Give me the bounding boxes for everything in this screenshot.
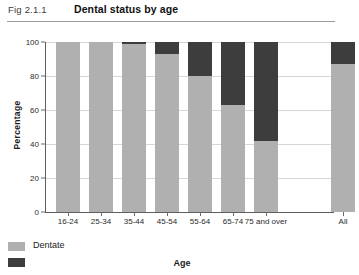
bar-segment-edentate bbox=[122, 42, 146, 44]
bar-segment-dentate bbox=[254, 141, 278, 212]
y-tick-mark bbox=[41, 42, 45, 43]
y-tick-label: 0 bbox=[17, 208, 39, 217]
bar-segment-edentate bbox=[331, 42, 355, 64]
figure-title: Dental status by age bbox=[74, 3, 178, 15]
y-tick-label: 40 bbox=[17, 140, 39, 149]
y-tick-label: 80 bbox=[17, 72, 39, 81]
x-tick-mark bbox=[134, 212, 135, 216]
legend-item[interactable]: Dentate bbox=[8, 240, 178, 256]
figure-number: Fig 2.1.1 bbox=[8, 4, 47, 15]
x-tick-mark bbox=[266, 212, 267, 216]
y-tick-mark bbox=[41, 178, 45, 179]
bar-25-34[interactable] bbox=[89, 42, 113, 212]
bar-16-24[interactable] bbox=[56, 42, 80, 212]
bar-55-64[interactable] bbox=[188, 42, 212, 212]
bar-segment-dentate bbox=[188, 76, 212, 212]
x-tick-label: All bbox=[320, 217, 359, 227]
x-tick-mark bbox=[343, 212, 344, 216]
chart-legend: Dentate bbox=[8, 240, 178, 272]
legend-swatch bbox=[8, 258, 25, 267]
x-tick-mark bbox=[200, 212, 201, 216]
bar-segment-dentate bbox=[331, 64, 355, 212]
bar-segment-dentate bbox=[56, 42, 80, 212]
bar-segment-dentate bbox=[221, 105, 245, 212]
y-tick-mark bbox=[41, 76, 45, 77]
y-tick-label: 20 bbox=[17, 174, 39, 183]
bar-segment-dentate bbox=[122, 44, 146, 212]
bar-segment-edentate bbox=[254, 42, 278, 141]
y-tick-mark bbox=[41, 110, 45, 111]
legend-label: Dentate bbox=[33, 240, 65, 250]
y-axis-ticks: 020406080100 bbox=[17, 24, 39, 224]
bar-series-container bbox=[45, 42, 333, 212]
bar-segment-dentate bbox=[89, 42, 113, 212]
bar-segment-edentate bbox=[155, 42, 179, 54]
x-tick-mark bbox=[167, 212, 168, 216]
legend-item[interactable] bbox=[8, 256, 178, 272]
header-divider bbox=[7, 21, 335, 22]
bar-segment-dentate bbox=[155, 54, 179, 212]
bar-all[interactable] bbox=[331, 42, 355, 212]
bar-segment-edentate bbox=[188, 42, 212, 76]
bar-45-54[interactable] bbox=[155, 42, 179, 212]
legend-swatch bbox=[8, 242, 25, 251]
x-tick-mark bbox=[68, 212, 69, 216]
y-tick-mark bbox=[41, 212, 45, 213]
x-axis-line bbox=[45, 212, 334, 213]
y-tick-label: 60 bbox=[17, 106, 39, 115]
bar-35-44[interactable] bbox=[122, 42, 146, 212]
y-tick-label: 100 bbox=[17, 38, 39, 47]
x-tick-label: 75 and over bbox=[243, 217, 289, 227]
chart-area: Percentage 020406080100 16-2425-3435-444… bbox=[0, 24, 342, 275]
bar-75-and-over[interactable] bbox=[254, 42, 278, 212]
y-tick-mark bbox=[41, 144, 45, 145]
x-tick-mark bbox=[101, 212, 102, 216]
figure-header: Fig 2.1.1 Dental status by age bbox=[0, 0, 342, 24]
x-tick-mark bbox=[233, 212, 234, 216]
bar-65-74[interactable] bbox=[221, 42, 245, 212]
bar-segment-edentate bbox=[221, 42, 245, 105]
